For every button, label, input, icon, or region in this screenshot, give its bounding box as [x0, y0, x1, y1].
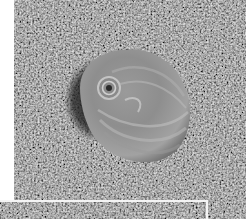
white-left-border	[0, 0, 14, 200]
white-vertical-line	[206, 200, 208, 219]
shell-spiral	[98, 77, 120, 99]
white-horizontal-line	[0, 200, 208, 202]
sand-background	[0, 0, 246, 219]
snail-shell-photo: Grayscale photograph of a moon snail she…	[0, 0, 246, 219]
